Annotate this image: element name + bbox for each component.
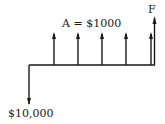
annuity-label: A = $1000	[62, 18, 121, 29]
future-value-label: F	[148, 4, 156, 15]
present-value-label: $10,000	[8, 108, 54, 119]
